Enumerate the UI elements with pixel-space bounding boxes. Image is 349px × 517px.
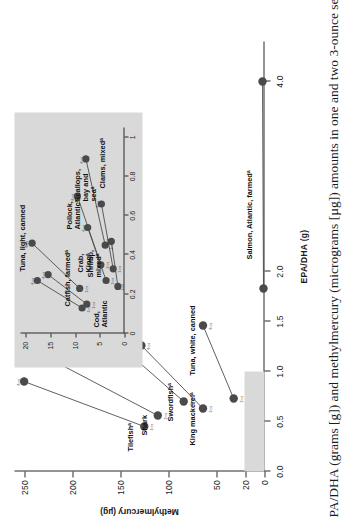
rotated-figure-wrapper: 0 20 50 100 150 200 250 0.0 0.5 1.0 1.5 …: [0, 0, 325, 517]
inset-annotation-clams-6oz: 6 oz: [105, 238, 109, 245]
inset-y-tick-0: [124, 333, 125, 337]
point-salmon-atlantic-farmed-3oz: [259, 284, 267, 292]
inset-x-tick-label-1: 1: [128, 135, 135, 139]
point-salmon-atlantic-farmed-6oz: [258, 77, 266, 85]
y-tick-100: [168, 471, 169, 477]
y-tick-50: [216, 471, 217, 477]
series-label-shark: Shark: [140, 414, 148, 435]
inset-y-tick-20: [25, 333, 26, 337]
y-tick-0: [264, 471, 265, 477]
inset-x-tick-0.4: [124, 254, 128, 255]
inset-series-label-pollock-atlantic: Pollock, Atlanticᵃ: [65, 199, 81, 229]
series-line-tilefish: [24, 381, 144, 426]
annotation-king-mackerel-3oz: 3 oz: [208, 405, 212, 412]
x-tick-label-2.0: 2.0: [274, 265, 284, 277]
point-tuna-white-canned-3oz: [229, 394, 237, 402]
annotation-tilefish-3oz: 3 oz: [149, 423, 153, 430]
x-tick-label-0.5: 0.5: [274, 415, 284, 427]
y-tick-label-20: 20: [240, 480, 250, 490]
series-line-salmon-atlantic-farmed: [262, 81, 263, 288]
point-tuna-white-canned-6oz: [198, 321, 206, 329]
series-label-tilefish: Tilefishᵃ: [126, 422, 134, 451]
inset-annotation-shrimp-6oz: 6 oz: [81, 224, 85, 231]
inset-series-label-clams-mixed: Clams, mixedᵃ: [98, 138, 106, 188]
y-tick-250: [24, 471, 25, 477]
figure-caption: PA/DHA (grams [g]) and methylmercury (mi…: [323, 0, 345, 517]
inset-series-label-cod-atlantic: Cod, Atlantic: [92, 301, 108, 327]
figure: 0 20 50 100 150 200 250 0.0 0.5 1.0 1.5 …: [0, 0, 325, 517]
inset-scatter-plot: 0 5 10 15 20 0 0.2 0.4 0.6 0.8: [14, 112, 142, 367]
figure-caption-text: PA/DHA (grams [g]) and methylmercury (mi…: [323, 0, 345, 517]
x-tick-1.0: [264, 370, 270, 371]
annotation-king-mackerel-6oz: 6 oz: [146, 342, 150, 349]
inset-series-label-catfish-farmed: Catfish, farmedᵃ: [63, 249, 71, 306]
series-label-salmon-atlantic-farmed: Salmon, Atlantic, farmedᵃ: [245, 170, 253, 259]
series-line-tuna-white-canned: [203, 325, 234, 398]
inset-annotation-shrimp-3oz: 3 oz: [110, 277, 114, 284]
inset-annotation-pollock-3oz: 3 oz: [109, 242, 113, 249]
inset-point-shrimp-mixed-3oz: [102, 276, 109, 283]
inset-annotation-tuna-light-3oz: 3 oz: [84, 285, 88, 292]
x-tick-2.0: [264, 270, 270, 271]
annotation-tuna-white-6oz: 6 oz: [208, 322, 212, 329]
inset-x-tick-label-0: 0: [128, 331, 135, 335]
y-tick-label-250: 250: [19, 480, 29, 495]
annotation-tilefish-6oz: 6 oz: [16, 378, 20, 385]
series-label-king-mackerel: King mackerelᵃ: [188, 392, 196, 445]
figure-page: 0 20 50 100 150 200 250 0.0 0.5 1.0 1.5 …: [0, 0, 349, 517]
inset-series-label-shrimp-mixed: Shrimp, mixedᵃ: [86, 251, 102, 277]
inset-x-tick-label-0.2: 0.2: [128, 289, 135, 299]
inset-x-tick-0.6: [124, 214, 128, 215]
inset-x-tick-label-0.6: 0.6: [128, 210, 135, 220]
inset-y-tick-label-5: 5: [96, 341, 103, 345]
y-tick-label-0: 0: [259, 480, 269, 485]
x-tick-0.5: [264, 420, 270, 421]
x-tick-label-0.0: 0.0: [274, 465, 284, 477]
x-tick-label-1.0: 1.0: [274, 365, 284, 377]
y-axis-title: Methylmercury (µg): [100, 506, 179, 516]
inset-x-tick-label-0.4: 0.4: [128, 250, 135, 260]
inset-annotation-cod-6oz: 6 oz: [30, 277, 34, 284]
inset-y-tick-10: [75, 333, 76, 337]
inset-annotation-cod-3oz: 3 oz: [86, 305, 90, 312]
inset-x-tick-0.2: [124, 293, 128, 294]
inset-y-tick-15: [50, 333, 51, 337]
x-tick-1.5: [264, 320, 270, 321]
inset-x-tick-0.8: [124, 175, 128, 176]
inset-annotation-catfish-6oz: 6 oz: [41, 271, 45, 278]
y-tick-label-200: 200: [67, 480, 77, 495]
y-tick-150: [120, 471, 121, 477]
inset-y-tick-label-0: 0: [121, 341, 128, 345]
y-tick-20: [245, 471, 246, 477]
inset-x-tick-0: [124, 332, 128, 333]
inset-y-tick-5: [99, 333, 100, 337]
inset-x-tick-label-0.8: 0.8: [128, 171, 135, 181]
inset-annotation-scallops-3oz: 3 oz: [117, 265, 121, 272]
y-tick-label-100: 100: [163, 480, 173, 495]
point-tilefish-6oz: [19, 377, 27, 385]
inset-annotation-crab-king-3oz: 3 oz: [105, 261, 109, 268]
inset-x-tick-1: [124, 136, 128, 137]
inset-point-tuna-light-canned-6oz: [28, 239, 35, 246]
inset-y-tick-label-10: 10: [71, 341, 78, 349]
y-tick-200: [72, 471, 73, 477]
series-label-tuna-white-canned: Tuna, white, canned: [188, 305, 196, 375]
inset-series-label-scallops: Scallops, bay and seaᵃ: [73, 161, 96, 201]
y-tick-label-50: 50: [211, 480, 221, 490]
inset-y-tick-label-20: 20: [22, 341, 29, 349]
x-axis-title: EPA/DHA (g): [298, 229, 308, 283]
inset-data-layer: [20, 127, 124, 333]
x-tick-0.0: [264, 470, 270, 471]
inset-y-tick-label-15: 15: [46, 341, 53, 349]
y-tick-label-150: 150: [115, 480, 125, 495]
inset-series-label-tuna-light-canned: Tuna, light, canned: [18, 204, 26, 271]
point-shark-3oz: [153, 411, 161, 419]
series-label-swordfish: Swordfishᵃ: [166, 382, 174, 421]
x-tick-label-4.0: 4.0: [274, 75, 284, 87]
inset-axes: 0 5 10 15 20 0 0.2 0.4 0.6 0.8: [20, 127, 124, 333]
inset-annotation-clams-3oz: 3 oz: [120, 283, 124, 290]
annotation-tuna-white-3oz: 3 oz: [239, 395, 243, 402]
x-tick-label-1.5: 1.5: [274, 315, 284, 327]
